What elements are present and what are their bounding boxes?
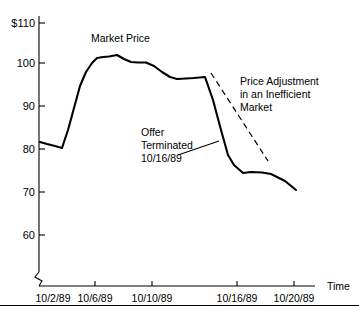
price-adjustment-label-line2: in an Inefficient — [240, 88, 311, 100]
price-adjustment-label-line3: Market — [240, 101, 272, 113]
x-tick-label-10-6-89: 10/6/89 — [77, 292, 112, 304]
bottom-divider — [0, 305, 359, 306]
offer-terminated-label-line2: Terminated — [141, 139, 193, 151]
market-price-label: Market Price — [91, 32, 150, 44]
price-adjustment-label-line1: Price Adjustment — [240, 75, 319, 87]
y-tick-label-60: 60 — [23, 229, 35, 241]
y-tick-label-100: 100 — [17, 57, 35, 69]
axis-break-icon — [35, 272, 42, 286]
x-tick-label-10-20-89: 10/20/89 — [274, 292, 315, 304]
y-tick-label-90: 90 — [23, 100, 35, 112]
x-tick-label-10-2-89: 10/2/89 — [35, 292, 70, 304]
chart-svg: $110 100 90 80 70 60 10/2/89 10/6/89 10/… — [0, 0, 359, 312]
x-axis-title: Time — [327, 280, 350, 292]
x-tick-label-10-10-89: 10/10/89 — [132, 292, 173, 304]
x-tick-label-10-16-89: 10/16/89 — [217, 292, 258, 304]
offer-terminated-label-line1: Offer — [141, 126, 165, 138]
y-tick-label-70: 70 — [23, 186, 35, 198]
price-chart-figure: $110 100 90 80 70 60 10/2/89 10/6/89 10/… — [0, 0, 359, 312]
offer-terminated-label-line3: 10/16/89 — [141, 152, 182, 164]
y-tick-label-110: $110 — [11, 17, 35, 29]
y-tick-label-80: 80 — [23, 143, 35, 155]
